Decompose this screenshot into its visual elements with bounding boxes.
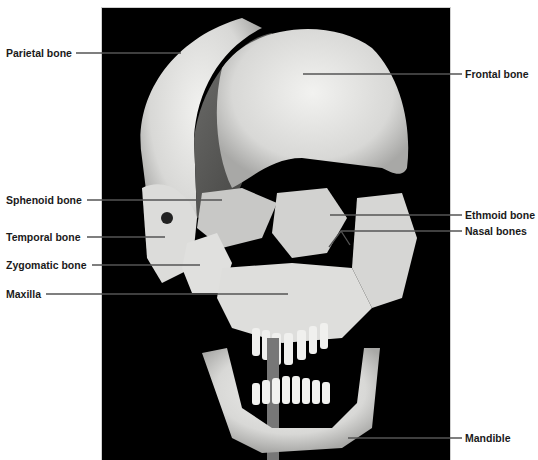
label-parietal-bone: Parietal bone <box>6 47 72 59</box>
label-maxilla: Maxilla <box>6 288 41 300</box>
frontal-bone-shape <box>217 29 408 188</box>
lower-teeth <box>252 376 330 405</box>
label-sphenoid-bone: Sphenoid bone <box>6 194 82 206</box>
label-frontal-bone: Frontal bone <box>465 68 529 80</box>
label-nasal-bones: Nasal bones <box>465 225 527 237</box>
label-temporal-bone: Temporal bone <box>6 231 80 243</box>
label-ethmoid-bone: Ethmoid bone <box>465 209 535 221</box>
label-mandible: Mandible <box>465 432 511 444</box>
skull-photograph <box>101 7 451 460</box>
ethmoid-bone-shape <box>272 188 347 258</box>
label-zygomatic-bone: Zygomatic bone <box>6 259 87 271</box>
skull-illustration <box>102 8 450 460</box>
maxilla-bone-shape <box>217 263 372 343</box>
